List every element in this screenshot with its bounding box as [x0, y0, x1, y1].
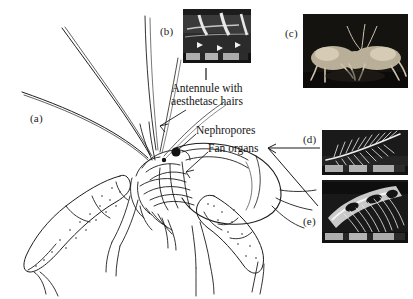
- crayfish-pair-photograph: [303, 14, 408, 88]
- figure-canvas: (b): [0, 0, 413, 299]
- antennule-micrograph: [183, 9, 251, 63]
- seta-brush-micrograph: [322, 180, 408, 243]
- panel-label-b: (b): [160, 25, 173, 37]
- annotation-fan-organs: Fan organs: [208, 142, 259, 155]
- annotation-antennule-line1: Antennule with: [148, 82, 266, 95]
- panel-label-a: (a): [30, 112, 43, 124]
- plumose-seta-micrograph: [322, 130, 408, 175]
- micrograph-infobar: [186, 53, 249, 60]
- stipple-texture: [35, 187, 257, 267]
- panel-label-e: (e): [303, 215, 316, 227]
- micrograph-infobar: [325, 233, 404, 240]
- annotation-antennule-line2: aesthetasc hairs: [148, 95, 266, 108]
- micrograph-infobar: [325, 165, 404, 172]
- annotation-antennule: Antennule with aesthetasc hairs: [148, 82, 266, 107]
- panel-label-c: (c): [285, 27, 298, 39]
- annotation-nephropores: Nephropores: [196, 124, 255, 137]
- panel-label-d: (d): [303, 133, 316, 145]
